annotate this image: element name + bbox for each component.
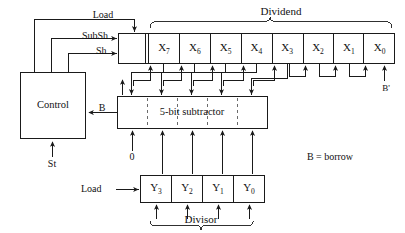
dividend-group-label: Dividend xyxy=(261,6,302,17)
register-cell-base: X xyxy=(281,41,289,53)
dividend-cell-x7: X7 xyxy=(158,42,170,56)
dividend-cell-x1: X1 xyxy=(343,42,355,56)
sh-signal-label: Sh xyxy=(96,46,107,56)
divisor-cell-y1: Y1 xyxy=(212,182,224,196)
x7-to-subtractor xyxy=(132,64,164,95)
register-cell-base: X xyxy=(220,41,228,53)
register-cell-index: 3 xyxy=(158,187,162,196)
divisor-cell-y2: Y2 xyxy=(181,182,193,196)
subtractor-to-x7 xyxy=(134,66,151,86)
dividend-cell-x5: X5 xyxy=(220,42,232,56)
dividend-cell-x6: X6 xyxy=(189,42,201,56)
load-signal-label: Load xyxy=(93,10,114,20)
register-cell-base: X xyxy=(312,41,320,53)
zero-input-label: 0 xyxy=(130,152,135,162)
dividend-cell-x3: X3 xyxy=(281,42,293,56)
register-cell-index: 5 xyxy=(228,47,232,56)
register-cell-base: X xyxy=(251,41,259,53)
x5-to-subtractor xyxy=(192,64,226,95)
subsh-signal-line xyxy=(52,39,117,73)
subtractor-out-x6 xyxy=(164,66,182,86)
divisor-group-label: Divisor xyxy=(185,214,218,225)
register-cell-index: 4 xyxy=(258,47,262,56)
divisor-cell-y0: Y0 xyxy=(243,182,255,196)
subtractor-out-x4 xyxy=(224,66,244,86)
subtractor-block-label: 5-bit subtractor xyxy=(160,107,224,118)
register-cell-index: 2 xyxy=(320,47,324,56)
register-cell-base: X xyxy=(189,41,197,53)
register-cell-index: 0 xyxy=(382,47,386,56)
register-cell-index: 0 xyxy=(251,187,255,196)
register-cell-base: Y xyxy=(150,181,158,193)
divider-block-diagram: Dividend Divisor Load SubSh Sh St B B' 0… xyxy=(0,0,405,233)
x6-to-subtractor xyxy=(162,64,195,95)
subsh-signal-label: SubSh xyxy=(82,31,108,41)
x3-to-x2-shift xyxy=(290,64,306,77)
dividend-cell-x2: X2 xyxy=(312,42,324,56)
register-cell-base: Y xyxy=(181,181,189,193)
register-cell-index: 6 xyxy=(197,47,201,56)
sh-signal-line xyxy=(69,54,117,73)
borrow-signal-label: B xyxy=(99,103,106,113)
divisor-load-label: Load xyxy=(81,184,102,194)
register-cell-base: X xyxy=(158,41,166,53)
dividend-cell-x4: X4 xyxy=(251,42,263,56)
register-cell-base: Y xyxy=(243,181,251,193)
register-cell-index: 7 xyxy=(166,47,170,56)
register-cell-base: Y xyxy=(212,181,220,193)
register-cell-index: 1 xyxy=(351,47,355,56)
register-cell-base: X xyxy=(343,41,351,53)
dividend-cell-x0: X0 xyxy=(374,42,386,56)
register-cell-base: X xyxy=(374,41,382,53)
x2-to-x1-shift xyxy=(320,64,336,77)
x1-to-x0-shift xyxy=(350,64,366,77)
register-cell-index: 3 xyxy=(289,47,293,56)
register-cell-index: 2 xyxy=(189,187,193,196)
legend-note: B = borrow xyxy=(307,152,353,162)
register-cell-index: 1 xyxy=(220,187,224,196)
dividend-brace xyxy=(150,17,392,28)
st-signal-label: St xyxy=(48,159,56,169)
borrow-prime-label: B' xyxy=(382,84,390,93)
divisor-cell-y3: Y3 xyxy=(150,182,162,196)
control-block-label: Control xyxy=(37,100,69,111)
subtractor-out-x5 xyxy=(194,66,213,86)
